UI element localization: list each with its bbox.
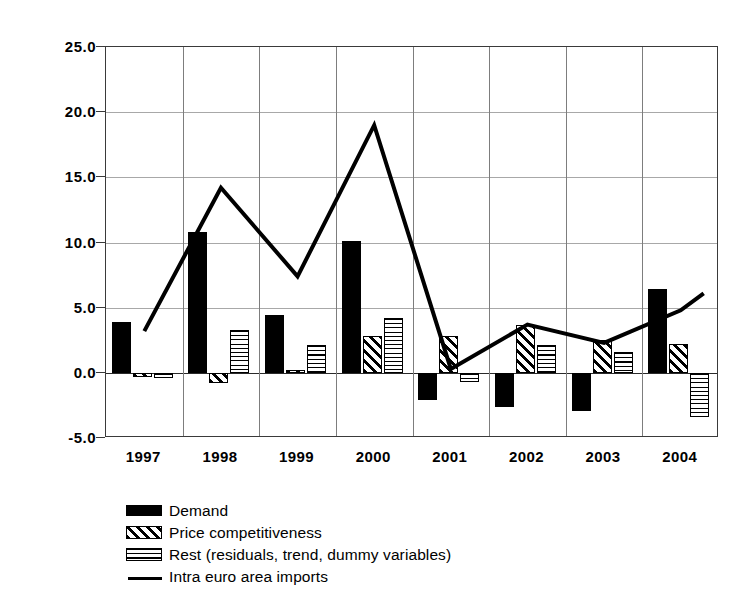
y-axis-tick-mark	[96, 437, 105, 438]
x-axis-tick-label: 2000	[356, 448, 391, 465]
y-axis-tick-mark	[96, 307, 105, 308]
bar-rest	[230, 330, 249, 373]
gridline-vertical	[642, 47, 643, 436]
legend-label-price-competitiveness: Price competitiveness	[169, 524, 322, 542]
gridline-vertical	[413, 47, 414, 436]
legend-item-intra-euro-area-imports: Intra euro area imports	[126, 566, 686, 587]
legend-label-intra-euro-area-imports: Intra euro area imports	[169, 568, 328, 586]
bar-demand	[342, 241, 361, 373]
legend-item-rest: Rest (residuals, trend, dummy variables)	[126, 544, 686, 565]
x-axis-tick-label: 1997	[126, 448, 161, 465]
bar-rest	[460, 373, 479, 382]
bar-price-competitiveness	[286, 370, 305, 373]
bar-price-competitiveness	[209, 373, 228, 383]
bar-price-competitiveness	[439, 336, 458, 372]
legend-swatch-price-competitiveness-icon	[126, 526, 162, 539]
y-axis-tick-mark	[96, 176, 105, 177]
bar-rest	[307, 345, 326, 372]
x-axis-tick-label: 2002	[509, 448, 544, 465]
gridline-horizontal	[106, 177, 717, 178]
x-axis-tick-label: 2001	[432, 448, 467, 465]
chart-figure: -5.00.05.010.015.020.025.0 1997199819992…	[0, 0, 744, 599]
bar-demand	[572, 373, 591, 411]
legend-swatch-rest-icon	[126, 548, 162, 561]
legend-swatch-line-icon	[126, 570, 162, 583]
bar-price-competitiveness	[669, 344, 688, 373]
x-axis-tick-label: 2003	[586, 448, 621, 465]
legend-label-demand: Demand	[169, 502, 228, 520]
legend-swatch-demand-icon	[126, 505, 162, 516]
gridline-horizontal	[106, 112, 717, 113]
gridline-vertical	[259, 47, 260, 436]
y-axis-tick-mark	[96, 242, 105, 243]
zero-axis-line	[106, 373, 717, 374]
gridline-vertical	[183, 47, 184, 436]
bar-rest	[154, 373, 173, 378]
bar-demand	[418, 373, 437, 400]
y-axis-tick-mark	[96, 372, 105, 373]
legend-label-rest: Rest (residuals, trend, dummy variables)	[169, 546, 451, 564]
x-axis-tick-label: 2004	[662, 448, 697, 465]
bar-rest	[614, 352, 633, 373]
gridline-vertical	[489, 47, 490, 436]
y-axis-tick-label: 20.0	[26, 103, 96, 120]
x-axis-tick-label: 1999	[279, 448, 314, 465]
bar-rest	[690, 373, 709, 417]
chart-legend: Demand Price competitiveness Rest (resid…	[126, 500, 686, 588]
y-axis-tick-mark	[96, 46, 105, 47]
y-axis-tick-label: 5.0	[26, 298, 96, 315]
bar-demand	[188, 232, 207, 373]
bar-price-competitiveness	[133, 373, 152, 377]
bar-price-competitiveness	[516, 325, 535, 373]
plot-area	[105, 46, 718, 437]
y-axis-tick-label: 0.0	[26, 363, 96, 380]
bar-demand	[495, 373, 514, 407]
y-axis-tick-label: 25.0	[26, 38, 96, 55]
bar-demand	[265, 315, 284, 372]
bar-rest	[384, 318, 403, 373]
bar-price-competitiveness	[593, 340, 612, 373]
bar-rest	[537, 345, 556, 372]
gridline-vertical	[336, 47, 337, 436]
legend-item-price-competitiveness: Price competitiveness	[126, 522, 686, 543]
y-axis-tick-label: 15.0	[26, 168, 96, 185]
y-axis-tick-label: -5.0	[26, 429, 96, 446]
bar-demand	[112, 322, 131, 373]
bar-price-competitiveness	[363, 336, 382, 372]
bar-demand	[648, 289, 667, 372]
y-axis-tick-mark	[96, 111, 105, 112]
y-axis-tick-label: 10.0	[26, 233, 96, 250]
legend-item-demand: Demand	[126, 500, 686, 521]
gridline-vertical	[566, 47, 567, 436]
x-axis-tick-label: 1998	[202, 448, 237, 465]
